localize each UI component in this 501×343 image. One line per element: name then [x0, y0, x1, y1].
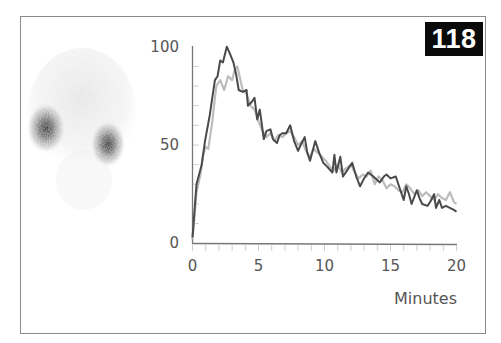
x-axis-title: Minutes	[394, 289, 457, 308]
x-axis	[192, 244, 457, 252]
y-tick-label: 0	[169, 234, 179, 252]
x-tick-label: 5	[254, 257, 264, 275]
x-tick-label: 20	[447, 257, 466, 275]
x-tick-labels: 05101520	[188, 257, 466, 275]
y-tick-labels: 050100	[150, 38, 179, 253]
light-curve-line	[193, 66, 457, 239]
dark-curve-line	[193, 47, 457, 238]
y-tick-label: 50	[160, 136, 179, 154]
x-tick-label: 10	[315, 257, 334, 275]
x-tick-label: 15	[381, 257, 400, 275]
series-layer	[193, 47, 457, 240]
x-tick-label: 0	[188, 257, 198, 275]
y-tick-label: 100	[150, 38, 179, 56]
figure-number-badge: 118	[425, 22, 483, 56]
